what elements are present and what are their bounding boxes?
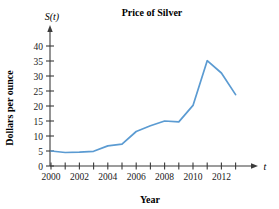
- y-tick-label-30: 30: [34, 72, 44, 82]
- y-tick-label-35: 35: [34, 57, 44, 67]
- y-tick-label-5: 5: [38, 147, 43, 157]
- x-tick-label-2008: 2008: [155, 172, 174, 182]
- chart-title: Price of Silver: [122, 7, 183, 18]
- y-axis-arrowhead: [47, 25, 52, 32]
- y-tick-label-10: 10: [34, 132, 44, 142]
- y-axis-title: Dollars per ounce: [4, 70, 15, 146]
- x-tick-label-2006: 2006: [127, 172, 146, 182]
- y-axis-variable-label: S(t): [45, 11, 60, 23]
- y-tick-label-0: 0: [38, 162, 43, 172]
- y-tick-label-25: 25: [34, 87, 44, 97]
- chart-canvas: Price of Silver S(t) Dollars per ounce Y…: [0, 0, 279, 209]
- y-tick-label-20: 20: [34, 102, 44, 112]
- x-axis-title: Year: [140, 194, 161, 205]
- x-axis: [50, 163, 258, 168]
- x-tick-label-2012: 2012: [212, 172, 231, 182]
- silver-price-line-series: [51, 61, 236, 153]
- x-tick-label-2004: 2004: [98, 172, 117, 182]
- y-tick-label-40: 40: [34, 42, 44, 52]
- x-axis-tick-labels: 2000 2002 2004 2006 2008 2010 2012: [42, 172, 232, 182]
- x-tick-label-2002: 2002: [70, 172, 89, 182]
- y-axis-tick-labels: 0 5 10 15 20 25 30 35 40: [34, 42, 44, 172]
- price-of-silver-chart-figure: Price of Silver S(t) Dollars per ounce Y…: [0, 0, 279, 209]
- x-axis-variable-label: t: [264, 161, 267, 172]
- y-tick-label-15: 15: [34, 117, 44, 127]
- x-tick-label-2000: 2000: [42, 172, 61, 182]
- x-axis-arrowhead: [251, 163, 258, 168]
- x-tick-label-2010: 2010: [184, 172, 203, 182]
